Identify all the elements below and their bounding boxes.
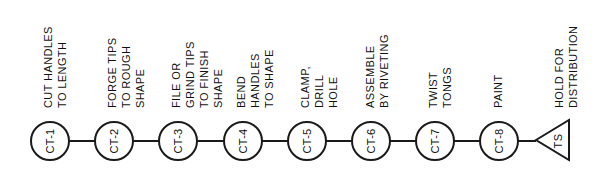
step-id: CT-3 <box>172 128 184 153</box>
connector-line <box>196 140 225 142</box>
description-line: SHAPE <box>211 41 225 108</box>
description-line: HANDLES <box>248 49 262 108</box>
step-id: CT-7 <box>429 128 441 153</box>
step-id: CT-6 <box>365 128 377 153</box>
step-description-ct-6: ASSEMBLE BY RIVETING <box>363 34 391 108</box>
step-description-ct-1: CUT HANDLES TO LENGTH <box>41 26 69 108</box>
description-line: DRILL <box>312 66 326 108</box>
description-line: SHAPE <box>133 38 147 108</box>
description-line: TO FINISH <box>197 41 211 108</box>
description-line: HOLE <box>326 66 340 108</box>
step-id: CT-8 <box>493 128 505 153</box>
step-description-ct-2: FORGE TIPS TO ROUGH SHAPE <box>105 38 147 108</box>
step-node-ct-6: CT-6 <box>351 121 391 161</box>
terminal-description: HOLD FOR DISTRIBUTION <box>552 26 580 108</box>
step-id: CT-1 <box>44 128 56 153</box>
terminal-id: TS <box>552 133 564 148</box>
description-line: DISTRIBUTION <box>566 26 580 108</box>
step-node-ct-5: CT-5 <box>287 121 327 161</box>
description-line: HOLD FOR <box>552 26 566 108</box>
description-line: FORGE TIPS <box>105 38 119 108</box>
description-line: TO SHAPE <box>262 49 276 108</box>
step-description-ct-7: TWIST TONGS <box>426 67 454 108</box>
description-line: PAINT <box>491 74 505 108</box>
step-node-ct-7: CT-7 <box>415 121 455 161</box>
step-id: CT-4 <box>237 128 249 153</box>
connector-line <box>261 140 289 142</box>
description-line: TONGS <box>440 67 454 108</box>
step-node-ct-1: CT-1 <box>30 121 70 161</box>
description-line: BY RIVETING <box>377 34 391 108</box>
description-line: CUT HANDLES <box>41 26 55 108</box>
step-description-ct-8: PAINT <box>491 74 505 108</box>
step-node-ct-4: CT-4 <box>223 121 263 161</box>
connector-line <box>453 140 481 142</box>
step-id: CT-2 <box>108 128 120 153</box>
step-id: CT-5 <box>301 128 313 153</box>
description-line: TO LENGTH <box>55 26 69 108</box>
description-line: CLAMP, <box>298 66 312 108</box>
description-line: FILE OR <box>169 41 183 108</box>
step-description-ct-3: FILE OR GRIND TIPS TO FINISH SHAPE <box>169 41 225 108</box>
description-line: TWIST <box>426 67 440 108</box>
step-node-ct-8: CT-8 <box>479 121 519 161</box>
step-description-ct-4: BEND HANDLES TO SHAPE <box>234 49 276 108</box>
description-line: ASSEMBLE <box>363 34 377 108</box>
step-node-ct-2: CT-2 <box>94 121 134 161</box>
step-node-ct-3: CT-3 <box>158 121 198 161</box>
connector-line <box>389 140 417 142</box>
connector-line <box>68 140 96 142</box>
description-line: BEND <box>234 49 248 108</box>
connector-line <box>132 140 160 142</box>
description-line: TO ROUGH <box>119 38 133 108</box>
description-line: GRIND TIPS <box>183 41 197 108</box>
connector-line <box>325 140 353 142</box>
step-description-ct-5: CLAMP, DRILL HOLE <box>298 66 340 108</box>
